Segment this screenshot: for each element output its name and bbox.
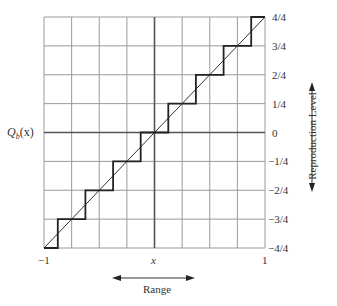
y-tick-label: −2/4 [268, 184, 288, 196]
y-tick-label: −4/4 [268, 242, 288, 254]
y-tick-label: −1/4 [268, 155, 288, 167]
range-label: Range [143, 283, 171, 295]
x-tick-neg1: −1 [38, 254, 50, 266]
x-axis-label: x [151, 254, 156, 266]
y-tick-label: 3/4 [272, 40, 286, 52]
q-function-label: Qb(x) [7, 126, 34, 143]
range-double-arrow-icon [112, 275, 195, 281]
quantizer-chart [0, 0, 337, 306]
reproduction-level-label: Reproduction Level [306, 81, 318, 191]
q-argument: (x) [20, 125, 34, 139]
x-tick-pos1: 1 [262, 254, 268, 266]
y-tick-label: 0 [272, 127, 278, 139]
q-main: Q [7, 125, 16, 139]
y-tick-label: 2/4 [272, 69, 286, 81]
y-tick-label: 4/4 [272, 11, 286, 23]
y-tick-label: −3/4 [268, 213, 288, 225]
y-tick-label: 1/4 [272, 98, 286, 110]
